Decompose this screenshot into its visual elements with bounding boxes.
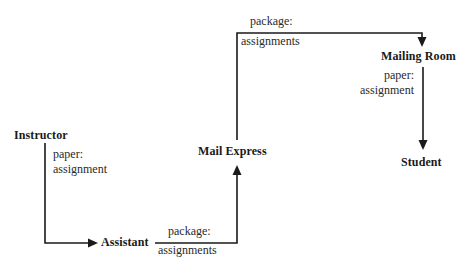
edge-label-line2: assignment (340, 83, 414, 98)
edge-label-mailexpress-mailingroom-bottom: assignments (241, 34, 300, 49)
node-mail-express: Mail Express (198, 144, 267, 159)
edge-label-assistant-mailexpress-bottom: assignments (158, 243, 217, 258)
edge-label-line1: paper: (340, 68, 414, 83)
edge-label-line2: assignment (53, 162, 107, 177)
arrowhead-up-icon (233, 165, 242, 175)
edge-label-line1: paper: (53, 147, 107, 162)
arrowhead-right-icon (88, 239, 98, 248)
arrowhead-down-icon (418, 37, 427, 47)
node-student: Student (401, 155, 442, 170)
node-instructor: Instructor (14, 128, 68, 143)
edge-label-mailexpress-mailingroom-top: package: (250, 14, 293, 29)
edge-label-mailingroom-student: paper: assignment (340, 68, 414, 98)
arrowhead-down-icon (419, 140, 428, 150)
connector-lines (0, 0, 470, 265)
edge-label-assistant-mailexpress-top: package: (168, 224, 211, 239)
node-mailing-room: Mailing Room (381, 49, 456, 64)
node-assistant: Assistant (101, 235, 149, 250)
edge-label-instructor-assistant: paper: assignment (53, 147, 107, 177)
